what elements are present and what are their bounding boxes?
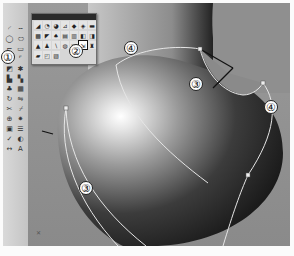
control-point	[261, 81, 265, 85]
drape-icon[interactable]: ♟	[43, 41, 51, 49]
mirror-icon[interactable]: ⇋	[16, 95, 25, 104]
circle-icon[interactable]: ◯	[5, 35, 14, 44]
blend-surface-icon[interactable]: ♠	[52, 31, 60, 39]
analyze-icon[interactable]: ✓	[5, 135, 14, 144]
surface-tools-icon[interactable]: ◩	[5, 65, 14, 74]
ellipse-icon[interactable]: ⬭	[16, 35, 25, 44]
callout-marker: ④	[124, 41, 138, 55]
rectangle-icon[interactable]: ▭	[16, 45, 25, 54]
flatten-icon[interactable]: ▰	[34, 51, 42, 59]
left-toolbar: ◜╌◯⬭⌐▭∽⌜◩✱▙▚♣▦↻⇋✂⌿⊕✷▣☰✓◐↔A	[3, 3, 29, 246]
dimension-icon[interactable]: ↔	[5, 145, 14, 154]
split-icon[interactable]: ⌿	[16, 105, 25, 114]
surface-toolbar-palette[interactable]: ◢◔◕⊿◆◈▬▩◤♠▤▥◧◨▲♟∖◍◪⇲♜▰◰▨	[31, 13, 97, 65]
explode-icon[interactable]: ✷	[16, 115, 25, 124]
rhino-window: ◜╌◯⬭⌐▭∽⌜◩✱▙▚♣▦↻⇋✂⌿⊕✷▣☰✓◐↔A	[3, 3, 290, 246]
extrude-icon[interactable]: ▙	[5, 75, 14, 84]
callout-marker: ③	[189, 77, 203, 91]
control-point	[246, 173, 250, 177]
plane-icon[interactable]: ▬	[88, 21, 96, 29]
trim-icon[interactable]: ✂	[5, 105, 14, 114]
edge-surface-icon[interactable]: ⊿	[61, 21, 69, 29]
rail-revolve-icon[interactable]: ◕	[52, 21, 60, 29]
heightfield-icon[interactable]: ◍	[61, 41, 69, 49]
text-icon[interactable]: A	[16, 145, 25, 154]
network-surface-icon[interactable]: ▩	[34, 31, 42, 39]
callout-marker: ③	[79, 181, 93, 195]
offset-surface-icon[interactable]: ▤	[61, 31, 69, 39]
rebuild-icon[interactable]: ▨	[52, 51, 60, 59]
revolve-icon[interactable]: ◔	[43, 21, 51, 29]
svg-text:✕: ✕	[36, 229, 41, 236]
unroll-icon[interactable]: ♜	[88, 41, 96, 49]
callout-marker: ②	[69, 44, 83, 58]
fillet-surface-icon[interactable]: ◧	[79, 31, 87, 39]
sweep-icon[interactable]: ◢	[34, 21, 42, 29]
control-point	[64, 106, 68, 110]
layer-icon[interactable]: ☰	[16, 125, 25, 134]
solid-icon[interactable]: ♣	[5, 85, 14, 94]
extend-surface-icon[interactable]: ▥	[70, 31, 78, 39]
cone-icon[interactable]: ▲	[34, 41, 42, 49]
loft-surface-icon[interactable]: ◈	[79, 21, 87, 29]
arc-icon[interactable]: ◜	[5, 25, 14, 34]
shrink-icon[interactable]: ◰	[43, 51, 51, 59]
control-point	[198, 47, 202, 51]
join-icon[interactable]: ⊕	[5, 115, 14, 124]
transform-icon[interactable]: ↻	[5, 95, 14, 104]
pipe-icon[interactable]: ∖	[52, 41, 60, 49]
callout-marker: ④	[264, 100, 278, 114]
group-icon[interactable]: ▣	[5, 125, 14, 134]
loft-icon[interactable]: ▚	[16, 75, 25, 84]
sweep2-icon[interactable]: ◤	[43, 31, 51, 39]
fillet-icon[interactable]: ⌜	[16, 55, 25, 64]
mesh-icon[interactable]: ▦	[16, 85, 25, 94]
patch-icon[interactable]: ◆	[70, 21, 78, 29]
render-icon[interactable]: ◐	[16, 135, 25, 144]
callout-marker: ①	[1, 50, 15, 64]
line-icon[interactable]: ╌	[16, 25, 25, 34]
point-icon[interactable]: ✱	[16, 65, 25, 74]
corner-icon[interactable]: ◨	[88, 31, 96, 39]
